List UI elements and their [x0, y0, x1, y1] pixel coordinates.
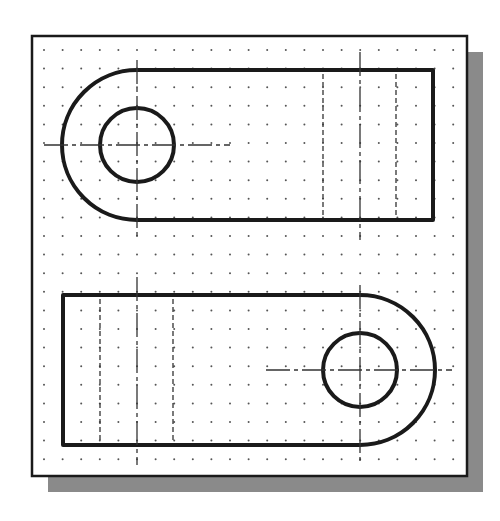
grid-dot [285, 272, 287, 274]
grid-dot [229, 309, 231, 311]
grid-dot [43, 105, 45, 107]
grid-dot [266, 384, 268, 386]
grid-dot [378, 123, 380, 125]
grid-dot [341, 161, 343, 163]
grid-dot [285, 440, 287, 442]
grid-dot [117, 328, 119, 330]
grid-dot [210, 179, 212, 181]
grid-dot [266, 421, 268, 423]
grid-dot [415, 123, 417, 125]
grid-dot [62, 458, 64, 460]
grid-dot [117, 440, 119, 442]
grid-dot [248, 458, 250, 460]
grid-dot [210, 309, 212, 311]
grid-dot [452, 179, 454, 181]
grid-dot [452, 86, 454, 88]
grid-dot [248, 105, 250, 107]
grid-dot [341, 291, 343, 293]
grid-dot [285, 142, 287, 144]
grid-dot [229, 161, 231, 163]
grid-dot [396, 421, 398, 423]
grid-dot [396, 384, 398, 386]
grid-dot [43, 198, 45, 200]
grid-dot [229, 254, 231, 256]
grid-dot [192, 291, 194, 293]
grid-dot [303, 123, 305, 125]
grid-dot [378, 365, 380, 367]
grid-dot [452, 142, 454, 144]
grid-dot [210, 254, 212, 256]
grid-dot [452, 291, 454, 293]
grid-dot [62, 235, 64, 237]
grid-dot [80, 272, 82, 274]
grid-dot [210, 123, 212, 125]
grid-dot [210, 272, 212, 274]
grid-dot [396, 402, 398, 404]
grid-dot [434, 347, 436, 349]
grid-dot [229, 86, 231, 88]
grid-dot [192, 198, 194, 200]
grid-dot [80, 49, 82, 51]
grid-dot [99, 161, 101, 163]
grid-dot [303, 86, 305, 88]
grid-dot [192, 440, 194, 442]
grid-dot [99, 86, 101, 88]
grid-dot [285, 49, 287, 51]
grid-dot [396, 347, 398, 349]
grid-dot [43, 216, 45, 218]
grid-dot [396, 142, 398, 144]
grid-dot [117, 235, 119, 237]
grid-dot [117, 254, 119, 256]
grid-dot [248, 254, 250, 256]
grid-dot [341, 421, 343, 423]
grid-dot [80, 179, 82, 181]
grid-dot [43, 161, 45, 163]
grid-dot [303, 291, 305, 293]
grid-dot [192, 179, 194, 181]
grid-dot [303, 105, 305, 107]
grid-dot [248, 384, 250, 386]
grid-dot [99, 328, 101, 330]
grid-dot [99, 123, 101, 125]
grid-dot [266, 49, 268, 51]
grid-dot [43, 68, 45, 70]
grid-dot [192, 86, 194, 88]
grid-dot [285, 458, 287, 460]
grid-dot [155, 142, 157, 144]
grid-dot [285, 347, 287, 349]
grid-dot [248, 235, 250, 237]
grid-dot [378, 86, 380, 88]
grid-dot [266, 254, 268, 256]
grid-dot [210, 347, 212, 349]
grid-dot [303, 161, 305, 163]
grid-dot [452, 328, 454, 330]
grid-dot [43, 365, 45, 367]
grid-dot [285, 235, 287, 237]
grid-dot [303, 198, 305, 200]
grid-dot [210, 384, 212, 386]
grid-dot [210, 198, 212, 200]
grid-dot [359, 347, 361, 349]
grid-dot [341, 123, 343, 125]
grid-dot [285, 105, 287, 107]
grid-dot [248, 198, 250, 200]
grid-dot [80, 235, 82, 237]
grid-dot [173, 86, 175, 88]
grid-dot [434, 328, 436, 330]
grid-dot [266, 142, 268, 144]
grid-dot [192, 142, 194, 144]
grid-dot [136, 309, 138, 311]
grid-dot [415, 384, 417, 386]
grid-dot [99, 272, 101, 274]
grid-dot [155, 347, 157, 349]
grid-dot [415, 86, 417, 88]
grid-dot [396, 86, 398, 88]
grid-dot [210, 86, 212, 88]
grid-dot [378, 347, 380, 349]
grid-dot [434, 440, 436, 442]
grid-dot [452, 49, 454, 51]
grid-dot [192, 458, 194, 460]
grid-dot [173, 458, 175, 460]
grid-dot [266, 272, 268, 274]
grid-dot [173, 291, 175, 293]
